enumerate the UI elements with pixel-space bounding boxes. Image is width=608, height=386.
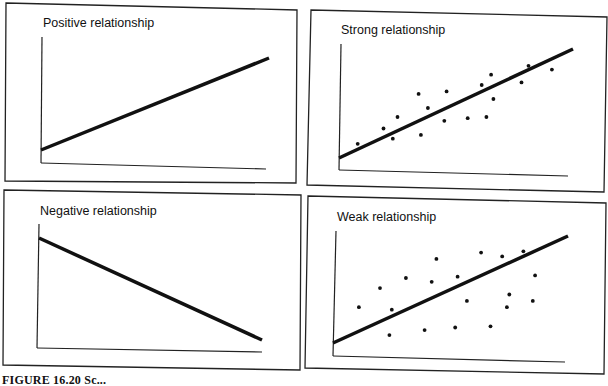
- data-point: [382, 127, 386, 131]
- panel-positive: Positive relationship: [5, 3, 297, 183]
- data-point: [391, 137, 395, 141]
- panel-frame: [5, 3, 297, 183]
- panel-title: Weak relationship: [337, 210, 436, 224]
- panel-strong: Strong relationship: [307, 10, 607, 192]
- data-point: [390, 308, 394, 312]
- data-point: [404, 276, 408, 280]
- x-axis: [333, 356, 565, 362]
- data-point: [507, 293, 511, 297]
- data-point: [435, 257, 439, 261]
- y-axis: [339, 44, 341, 170]
- data-point: [453, 326, 457, 330]
- data-point: [419, 133, 423, 137]
- data-point: [505, 305, 509, 309]
- data-point: [500, 255, 504, 259]
- y-axis: [41, 37, 42, 163]
- panel-title: Strong relationship: [341, 23, 445, 37]
- data-point: [485, 115, 489, 119]
- panel-frame: [307, 10, 607, 192]
- data-point: [445, 90, 449, 94]
- panel-negative: Negative relationship: [3, 190, 301, 370]
- figure-caption: FIGURE 16.20 Sc...: [2, 373, 106, 386]
- data-point: [378, 286, 382, 290]
- panel-title: Positive relationship: [43, 16, 154, 30]
- data-point: [520, 81, 524, 85]
- data-point: [527, 64, 531, 68]
- data-point: [357, 305, 361, 309]
- data-point: [533, 274, 537, 278]
- y-axis: [37, 224, 39, 348]
- data-point: [550, 68, 554, 72]
- data-point: [430, 280, 434, 284]
- trend-line: [333, 236, 568, 343]
- trend-line: [41, 58, 269, 150]
- data-point: [356, 142, 360, 146]
- data-point: [522, 249, 526, 253]
- figure-canvas: Positive relationship Strong relationshi…: [0, 0, 608, 386]
- y-axis: [333, 231, 336, 356]
- data-point: [388, 333, 392, 337]
- data-point: [423, 328, 427, 332]
- data-point: [492, 97, 496, 101]
- data-point: [466, 116, 470, 120]
- data-point: [489, 324, 493, 328]
- data-point: [480, 83, 484, 87]
- data-point: [417, 92, 421, 96]
- trend-line: [39, 238, 262, 340]
- x-axis: [339, 170, 568, 176]
- panel-title: Negative relationship: [40, 204, 157, 218]
- data-point: [442, 119, 446, 123]
- data-point: [531, 299, 535, 303]
- x-axis: [37, 348, 262, 352]
- data-point: [489, 73, 493, 77]
- trend-line: [339, 49, 573, 158]
- data-point: [479, 251, 483, 255]
- data-point: [465, 299, 469, 303]
- panel-weak: Weak relationship: [305, 196, 606, 374]
- data-point: [396, 115, 400, 119]
- x-axis: [41, 163, 266, 169]
- data-point: [456, 275, 460, 279]
- data-point: [426, 106, 430, 110]
